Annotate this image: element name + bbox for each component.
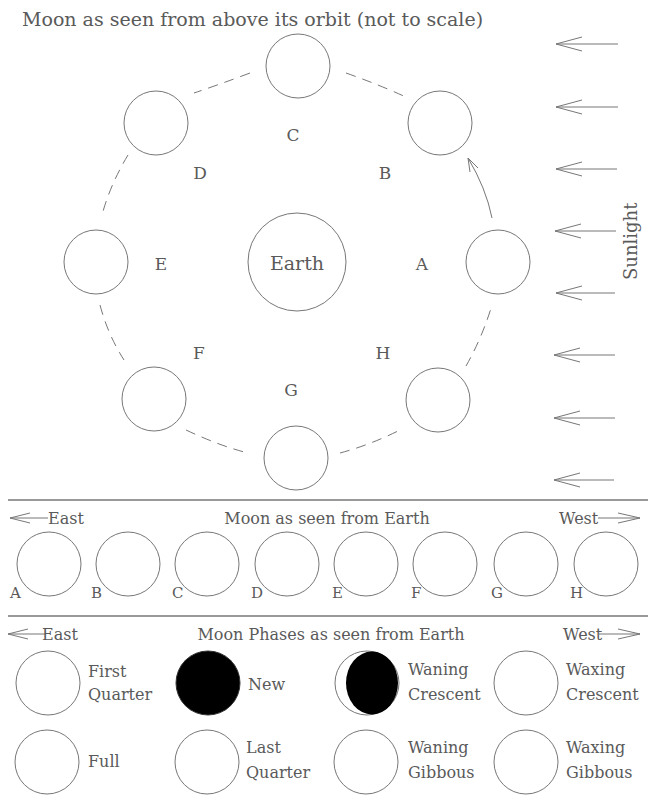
orbit-moon-f <box>122 367 186 431</box>
east-label: East <box>48 509 84 528</box>
phase-new-icon <box>176 651 240 715</box>
phase-waxing-crescent-icon <box>494 651 558 715</box>
phase-label-waning: Waning <box>408 660 469 679</box>
phases-west-arrow-icon <box>598 629 640 639</box>
orbit-moon-e <box>64 230 128 294</box>
east-arrow-icon <box>10 513 48 523</box>
orbit-label-c: C <box>286 125 299 145</box>
phase-waning-gibbous-icon <box>334 730 398 794</box>
orbit-label-b: B <box>379 163 392 183</box>
orbit-label-h: H <box>376 343 391 363</box>
moon-phases-diagram: Moon as seen from above its orbit (not t… <box>0 0 658 810</box>
phase-label-waning-2: Waning <box>408 738 469 757</box>
phases-east-label: East <box>42 625 78 644</box>
phase-label-quarter: Quarter <box>88 685 153 704</box>
diagram-title: Moon as seen from above its orbit (not t… <box>22 8 483 30</box>
phase-first-quarter-icon <box>16 651 80 715</box>
phase-label-first: First <box>88 662 127 681</box>
phase-label-waxing-2: Waxing <box>566 738 625 757</box>
phase-label-waxing-crescent: Crescent <box>566 685 639 704</box>
orbit-moon-a <box>466 230 530 294</box>
phase-label-last: Last <box>246 738 281 757</box>
phases-section: East Moon Phases as seen from Earth West… <box>8 625 640 794</box>
orbit-moon-h <box>406 368 470 432</box>
orbit-moon-d <box>124 91 188 155</box>
phase-label-waxing: Waxing <box>566 660 625 679</box>
seen-label-a: A <box>9 584 21 602</box>
seen-label-d: D <box>251 584 263 602</box>
orbit-label-d: D <box>193 163 207 183</box>
phase-label-new: New <box>248 675 285 694</box>
phase-label-gibbous: Gibbous <box>408 763 475 782</box>
orbit-label-a: A <box>415 254 429 274</box>
phase-full-icon <box>15 730 79 794</box>
phases-title: Moon Phases as seen from Earth <box>197 625 464 644</box>
phase-last-quarter-icon <box>175 730 239 794</box>
orbit-moon-g <box>264 426 328 490</box>
seen-label-h: H <box>570 584 583 602</box>
earth-label: Earth <box>270 252 324 274</box>
phases-west-label: West <box>563 625 603 644</box>
phase-waxing-gibbous-icon <box>494 730 558 794</box>
seen-from-earth-section: East Moon as seen from Earth West A B C … <box>9 509 640 602</box>
seen-label-f: F <box>411 584 421 602</box>
orbit-direction-arrow <box>468 158 492 218</box>
phase-label-last-quarter: Quarter <box>246 763 311 782</box>
west-label: West <box>559 509 599 528</box>
phase-waning-crescent-icon <box>335 651 399 715</box>
sunlight-label: Sunlight <box>620 202 641 280</box>
orbit-label-g: G <box>284 380 298 400</box>
seen-label-b: B <box>91 584 102 602</box>
seen-label-g: G <box>491 584 503 602</box>
seen-label-e: E <box>332 584 343 602</box>
orbit-moon-b <box>408 91 472 155</box>
orbit-label-e: E <box>155 254 167 274</box>
orbit-label-f: F <box>193 343 205 363</box>
seen-from-earth-title: Moon as seen from Earth <box>224 509 429 528</box>
phase-label-crescent: Crescent <box>408 685 481 704</box>
phase-label-full: Full <box>88 752 120 771</box>
seen-label-c: C <box>172 584 183 602</box>
phase-label-waxing-gibbous: Gibbous <box>566 763 633 782</box>
phases-east-arrow-icon <box>8 629 46 639</box>
orbit-moon-c <box>266 34 330 98</box>
west-arrow-icon <box>598 513 640 523</box>
sunlight-arrows <box>554 37 618 487</box>
